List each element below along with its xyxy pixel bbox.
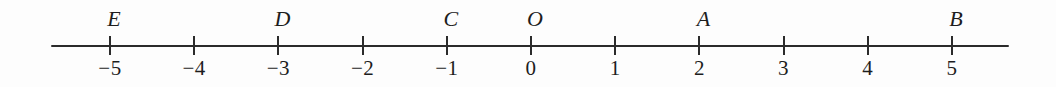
point-label-c: C	[443, 8, 458, 30]
tick-mark	[193, 36, 195, 55]
tick-label: −3	[267, 58, 290, 79]
point-label-b: B	[949, 8, 962, 30]
tick-mark	[446, 36, 448, 55]
tick-label: −1	[435, 58, 458, 79]
tick-label: 4	[862, 58, 873, 79]
tick-mark	[277, 36, 279, 55]
tick-mark	[867, 36, 869, 55]
point-label-e: E	[107, 8, 120, 30]
point-label-a: A	[697, 8, 710, 30]
tick-label: 0	[526, 58, 537, 79]
tick-mark	[109, 36, 111, 55]
tick-label: −5	[98, 58, 121, 79]
tick-label: 2	[694, 58, 705, 79]
number-line-figure: −5−4−3−2−1012345 EDCOAB	[0, 0, 1056, 87]
tick-mark	[783, 36, 785, 55]
tick-label: −4	[183, 58, 206, 79]
tick-mark	[530, 36, 532, 55]
tick-mark	[362, 36, 364, 55]
tick-label: 3	[778, 58, 789, 79]
tick-label: 1	[610, 58, 621, 79]
point-label-d: D	[274, 8, 290, 30]
tick-mark	[614, 36, 616, 55]
tick-label: 5	[947, 58, 958, 79]
tick-label: −2	[351, 58, 374, 79]
tick-mark	[951, 36, 953, 55]
tick-mark	[698, 36, 700, 55]
point-label-o: O	[527, 8, 543, 30]
